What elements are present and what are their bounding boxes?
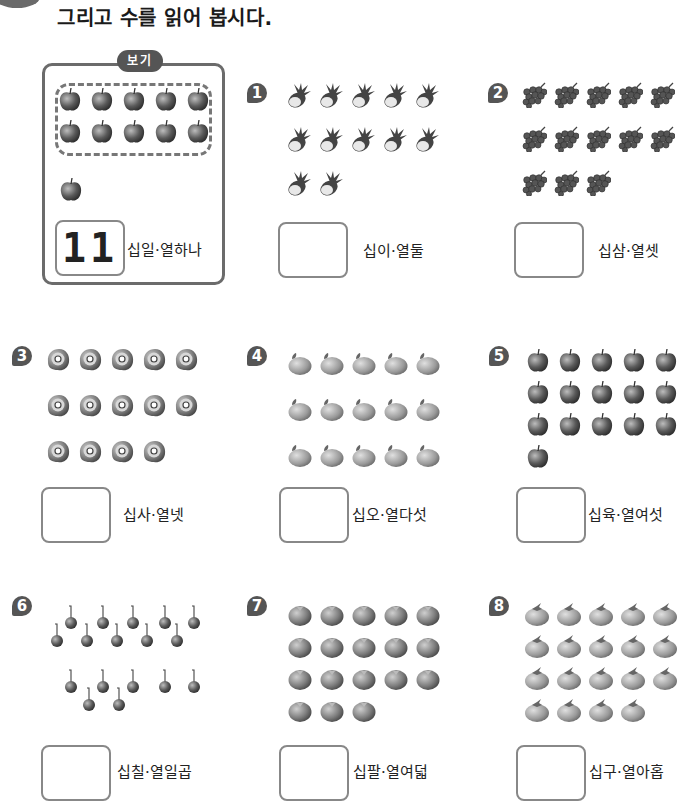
peach-icon	[287, 442, 313, 468]
apple-icon	[621, 348, 647, 374]
problem-1-fruits	[286, 82, 444, 196]
peach-icon	[319, 350, 345, 376]
pineapple-icon	[382, 82, 408, 108]
tomato-icon	[351, 697, 377, 723]
grapes-icon	[617, 82, 643, 108]
kiwi-icon	[45, 346, 71, 372]
problem-8-reading: 십구·열아홉	[589, 760, 664, 781]
apple-icon	[57, 119, 83, 145]
apple-icon	[185, 119, 211, 145]
problem-3-answer-box[interactable]	[41, 487, 111, 543]
problem-6-answer-box[interactable]	[41, 745, 111, 801]
kiwi-icon	[173, 346, 199, 372]
kiwi-icon	[109, 438, 135, 464]
tomato-icon	[319, 665, 345, 691]
persimmon-icon	[588, 601, 614, 627]
grapes-icon	[585, 126, 611, 152]
grapes-icon	[521, 170, 547, 196]
persimmon-icon	[588, 633, 614, 659]
persimmon-icon	[556, 665, 582, 691]
apple-icon	[557, 348, 583, 374]
cherry-icon	[180, 667, 206, 693]
grapes-icon	[521, 126, 547, 152]
peach-icon	[383, 396, 409, 422]
persimmon-icon	[620, 633, 646, 659]
kiwi-icon	[141, 438, 167, 464]
peach-icon	[415, 350, 441, 376]
tomato-icon	[287, 601, 313, 627]
tomato-icon	[415, 633, 441, 659]
kiwi-icon	[173, 392, 199, 418]
peach-icon	[319, 396, 345, 422]
peach-icon	[415, 396, 441, 422]
problem-2-reading: 십삼·열셋	[598, 239, 659, 260]
apple-icon	[57, 87, 83, 113]
section-badge-icon	[0, 0, 40, 8]
persimmon-icon	[620, 665, 646, 691]
example-reading: 십일·열하나	[127, 238, 202, 259]
problem-6-reading: 십칠·열일곱	[117, 760, 192, 781]
peach-icon	[287, 396, 313, 422]
cherry-icon	[163, 621, 189, 647]
apple-icon	[58, 177, 84, 203]
grapes-icon	[553, 82, 579, 108]
kiwi-icon	[141, 392, 167, 418]
apple-icon	[121, 87, 147, 113]
grapes-icon	[585, 82, 611, 108]
pineapple-icon	[318, 126, 344, 152]
apple-icon	[89, 87, 115, 113]
apple-icon	[153, 119, 179, 145]
pineapple-icon	[350, 126, 376, 152]
kiwi-icon	[77, 346, 103, 372]
problem-8-answer-box[interactable]	[516, 745, 586, 801]
apple-icon	[185, 87, 211, 113]
persimmon-icon	[556, 697, 582, 723]
kiwi-icon	[141, 346, 167, 372]
problem-number-badge: 1	[247, 83, 267, 103]
pineapple-icon	[318, 170, 344, 196]
problem-7-reading: 십팔·열여덟	[353, 760, 428, 781]
cherry-icon	[43, 621, 69, 647]
example-fruit-group	[57, 87, 215, 145]
persimmon-icon	[620, 601, 646, 627]
problem-2-answer-box[interactable]	[514, 222, 584, 278]
kiwi-icon	[77, 438, 103, 464]
persimmon-icon	[652, 633, 678, 659]
kiwi-icon	[45, 392, 71, 418]
problem-number-badge: 5	[489, 346, 509, 366]
pineapple-icon	[414, 126, 440, 152]
apple-icon	[589, 348, 615, 374]
kiwi-icon	[77, 392, 103, 418]
pineapple-icon	[318, 82, 344, 108]
tomato-icon	[415, 601, 441, 627]
apple-icon	[525, 412, 551, 438]
peach-icon	[351, 350, 377, 376]
problem-4-answer-box[interactable]	[279, 487, 349, 543]
tomato-icon	[287, 665, 313, 691]
tomato-icon	[383, 633, 409, 659]
apple-icon	[557, 412, 583, 438]
kiwi-icon	[109, 392, 135, 418]
pineapple-icon	[350, 82, 376, 108]
page-title: 그리고 수를 읽어 봅시다.	[57, 2, 273, 31]
tomato-icon	[351, 601, 377, 627]
problem-4-reading: 십오·열다섯	[352, 503, 427, 524]
problem-7-answer-box[interactable]	[279, 745, 349, 801]
apple-icon	[589, 412, 615, 438]
peach-icon	[383, 442, 409, 468]
persimmon-icon	[524, 665, 550, 691]
problem-7-fruits	[287, 601, 445, 723]
problem-5-answer-box[interactable]	[516, 487, 586, 543]
tomato-icon	[319, 601, 345, 627]
example-answer-box: 11	[55, 220, 125, 276]
cherry-icon	[105, 685, 131, 711]
problem-number-badge: 3	[12, 346, 32, 366]
problem-1-reading: 십이·열둘	[363, 239, 424, 260]
grapes-icon	[649, 82, 675, 108]
tomato-icon	[319, 633, 345, 659]
peach-icon	[415, 442, 441, 468]
problem-1-answer-box[interactable]	[278, 222, 348, 278]
apple-icon	[89, 119, 115, 145]
apple-icon	[621, 380, 647, 406]
apple-icon	[589, 380, 615, 406]
